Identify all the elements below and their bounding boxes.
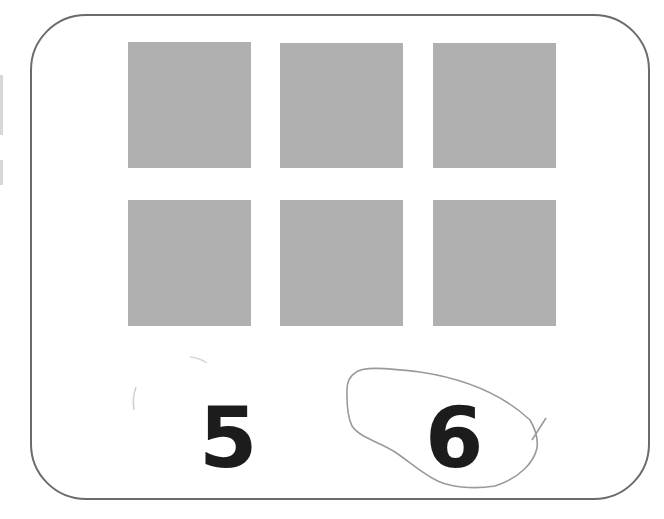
gray-square-3	[433, 43, 556, 168]
gray-square-5	[280, 200, 403, 326]
choice-number-5[interactable]: 5	[199, 396, 257, 480]
gray-square-1	[128, 42, 251, 168]
gray-square-6	[433, 200, 556, 326]
choice-number-6[interactable]: 6	[425, 396, 483, 480]
scan-mark	[0, 75, 3, 135]
gray-square-4	[128, 200, 251, 326]
scan-mark	[0, 160, 3, 185]
gray-square-2	[280, 43, 403, 168]
